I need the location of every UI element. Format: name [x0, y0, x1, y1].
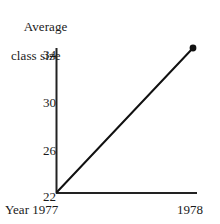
plot-area [0, 0, 220, 224]
line-chart: Average class size 34 30 26 22 Year 1977… [0, 0, 220, 224]
data-point-marker-1978 [190, 45, 197, 52]
data-series-line [57, 48, 193, 192]
